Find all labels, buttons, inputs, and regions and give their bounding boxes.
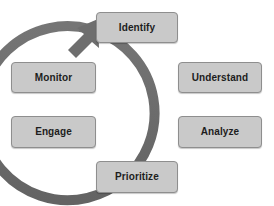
circular-process-diagram: Identify Understand Analyze Prioritize E… bbox=[0, 0, 274, 206]
node-monitor[interactable]: Monitor bbox=[11, 62, 96, 93]
node-understand-label: Understand bbox=[192, 73, 249, 83]
node-analyze-label: Analyze bbox=[201, 127, 240, 137]
node-identify[interactable]: Identify bbox=[96, 12, 178, 43]
node-understand[interactable]: Understand bbox=[178, 62, 262, 93]
node-prioritize[interactable]: Prioritize bbox=[96, 161, 178, 193]
node-analyze[interactable]: Analyze bbox=[178, 116, 262, 148]
node-monitor-label: Monitor bbox=[35, 73, 72, 83]
node-engage-label: Engage bbox=[35, 127, 72, 137]
node-identify-label: Identify bbox=[119, 23, 155, 33]
node-prioritize-label: Prioritize bbox=[115, 172, 159, 182]
node-engage[interactable]: Engage bbox=[11, 116, 96, 148]
